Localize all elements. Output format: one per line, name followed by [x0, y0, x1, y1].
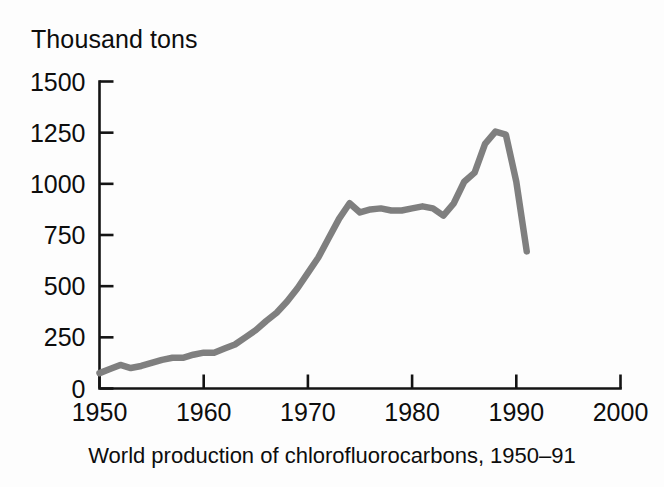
x-tick-label: 2000 [593, 398, 649, 426]
figure-caption: World production of chlorofluorocarbons,… [0, 443, 664, 469]
y-tick-label: 1500 [30, 68, 86, 96]
x-axis-tick-labels: 195019601970198019902000 [72, 398, 649, 426]
x-tick-label: 1990 [488, 398, 544, 426]
y-tick-label: 500 [44, 272, 86, 300]
y-tick-label: 1000 [30, 170, 86, 198]
y-tick-label: 250 [44, 323, 86, 351]
x-tick-label: 1950 [72, 398, 128, 426]
data-series-line [100, 132, 527, 374]
line-chart-plot: 0250500750100012501500 19501960197019801… [0, 0, 664, 487]
x-tick-label: 1970 [280, 398, 336, 426]
y-axis-tick-labels: 0250500750100012501500 [30, 68, 86, 403]
x-tick-label: 1980 [384, 398, 440, 426]
axis-tick-marks [100, 82, 621, 389]
y-tick-label: 1250 [30, 119, 86, 147]
axis-frame [100, 82, 621, 389]
y-tick-label: 750 [44, 221, 86, 249]
chart-figure: Thousand tons 0250500750100012501500 195… [0, 0, 664, 487]
x-tick-label: 1960 [176, 398, 232, 426]
